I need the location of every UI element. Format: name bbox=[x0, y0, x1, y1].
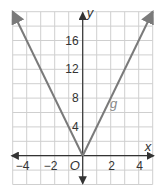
y-tick-label: 16 bbox=[65, 34, 79, 48]
graph-of-g: −4−224481216 x y O g bbox=[0, 0, 161, 196]
x-tick-label: −4 bbox=[16, 159, 30, 173]
y-axis-label: y bbox=[86, 5, 95, 20]
x-tick-label: 4 bbox=[136, 159, 143, 173]
x-axis-label: x bbox=[144, 139, 152, 154]
origin-label: O bbox=[70, 158, 80, 173]
x-tick-label: −2 bbox=[44, 159, 58, 173]
x-tick-label: 2 bbox=[108, 159, 115, 173]
y-tick-label: 8 bbox=[72, 91, 79, 105]
y-tick-label: 4 bbox=[72, 120, 79, 134]
y-tick-label: 12 bbox=[65, 62, 79, 76]
curve-label-g: g bbox=[110, 96, 118, 111]
